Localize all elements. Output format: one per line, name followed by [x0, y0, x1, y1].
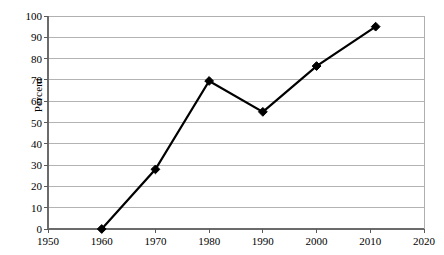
data-markers [97, 22, 380, 233]
gridlines [48, 16, 424, 229]
plot-area [0, 0, 444, 255]
line-chart: Percent 0102030405060708090100 195019601… [0, 0, 444, 255]
axis-ticks [44, 16, 424, 233]
data-series [102, 27, 376, 229]
